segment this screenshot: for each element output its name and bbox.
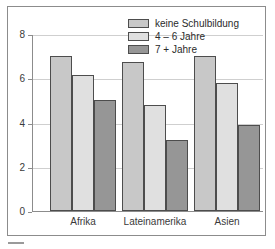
bar-group-asien	[194, 29, 260, 211]
y-tick-label-2: 2	[19, 163, 25, 173]
bar-lateinamerika-4-6-jahre	[144, 105, 166, 211]
y-tick-label-4: 4	[19, 119, 25, 129]
footnote-rule	[8, 242, 24, 244]
x-tick-label-afrika: Afrika	[50, 217, 116, 227]
bar-lateinamerika-keine-schulbildung	[122, 62, 144, 211]
chart-legend: keine Schulbildung 4 – 6 Jahre 7 + Jahre	[128, 18, 239, 55]
legend-label: 7 + Jahre	[155, 45, 197, 55]
x-tick-label-lateinamerika: Lateinamerika	[122, 217, 188, 227]
legend-entry-7-plus-jahre: 7 + Jahre	[128, 44, 239, 55]
bar-asien-4-6-jahre	[216, 83, 238, 211]
bars-layer	[32, 29, 263, 212]
bar-afrika-4-6-jahre	[72, 75, 94, 211]
bar-lateinamerika-7-plus-jahre	[166, 140, 188, 211]
y-tick-label-0: 0	[19, 207, 25, 217]
x-tick-label-asien: Asien	[194, 217, 260, 227]
y-tick-label-6: 6	[19, 74, 25, 84]
legend-swatch-icon	[128, 19, 149, 28]
legend-swatch-icon	[128, 45, 149, 54]
bar-asien-7-plus-jahre	[238, 125, 260, 211]
bar-group-afrika	[50, 29, 116, 211]
legend-label: keine Schulbildung	[155, 19, 239, 29]
y-tickmark	[28, 212, 32, 213]
bar-afrika-7-plus-jahre	[94, 100, 116, 211]
legend-entry-keine-schulbildung: keine Schulbildung	[128, 18, 239, 29]
legend-entry-4-6-jahre: 4 – 6 Jahre	[128, 31, 239, 42]
legend-label: 4 – 6 Jahre	[155, 32, 205, 42]
bar-asien-keine-schulbildung	[194, 56, 216, 211]
y-tick-label-8: 8	[19, 30, 25, 40]
bar-afrika-keine-schulbildung	[50, 56, 72, 211]
plot-area: 8 6 4 2 0	[32, 29, 263, 212]
bar-group-lateinamerika	[122, 29, 188, 211]
chart-frame: 8 6 4 2 0	[7, 6, 266, 236]
legend-swatch-icon	[128, 32, 149, 41]
